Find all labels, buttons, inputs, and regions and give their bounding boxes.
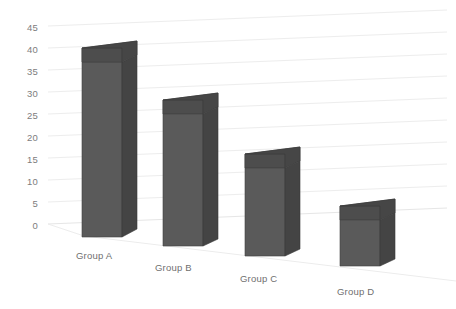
bar-group-c[interactable] xyxy=(245,147,300,256)
chart-plot-area xyxy=(0,0,456,309)
x-label-group-b: Group B xyxy=(155,262,192,273)
y-tick-30: 30 xyxy=(12,88,38,99)
y-tick-10: 10 xyxy=(12,176,38,187)
y-tick-0: 0 xyxy=(12,220,38,231)
y-tick-40: 40 xyxy=(12,44,38,55)
bar-group-a[interactable] xyxy=(82,41,137,237)
y-tick-15: 15 xyxy=(12,154,38,165)
y-tick-20: 20 xyxy=(12,132,38,143)
x-label-group-c: Group C xyxy=(240,273,277,284)
bar-group-b[interactable] xyxy=(163,93,218,246)
chart-container: 45 40 35 30 25 20 15 10 5 0 Group A Grou… xyxy=(0,0,456,309)
bar-group-d[interactable] xyxy=(340,199,395,266)
x-label-group-d: Group D xyxy=(337,286,374,297)
y-tick-5: 5 xyxy=(12,198,38,209)
y-tick-25: 25 xyxy=(12,110,38,121)
y-tick-45: 45 xyxy=(12,22,38,33)
y-tick-35: 35 xyxy=(12,66,38,77)
x-label-group-a: Group A xyxy=(76,250,112,261)
